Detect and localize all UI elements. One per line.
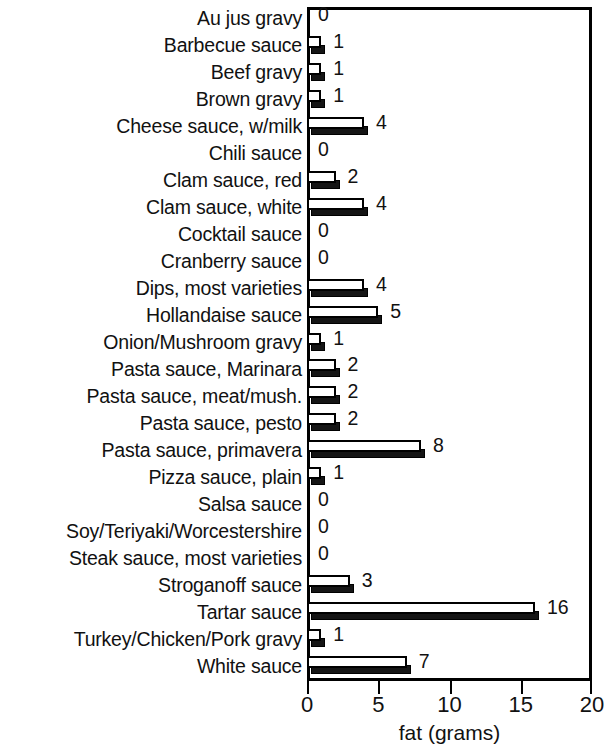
bar-value-label: 1 <box>333 32 344 52</box>
category-label: Pasta sauce, meat/mush. <box>0 387 302 407</box>
category-label: White sauce <box>0 657 302 677</box>
bar-row: 8 <box>307 438 592 465</box>
bar-row: 0 <box>307 250 592 277</box>
category-label: Stroganoff sauce <box>0 576 302 596</box>
bar-row: 4 <box>307 196 592 223</box>
bar-chart: Au jus gravyBarbecue sauceBeef gravyBrow… <box>0 0 611 754</box>
bar-face <box>307 63 321 75</box>
category-label: Brown gravy <box>0 90 302 110</box>
bar-row: 2 <box>307 411 592 438</box>
bar-value-label: 0 <box>318 248 329 268</box>
category-label: Hollandaise sauce <box>0 306 302 326</box>
bar-face <box>307 602 535 614</box>
bar-row: 1 <box>307 61 592 88</box>
bar-value-label: 1 <box>333 463 344 483</box>
bar-face <box>307 117 364 129</box>
x-tick-label: 0 <box>301 694 313 716</box>
category-label: Au jus gravy <box>0 9 302 29</box>
bar-face <box>307 279 364 291</box>
bar-face <box>307 413 336 425</box>
bar-row: 1 <box>307 34 592 61</box>
category-label: Dips, most varieties <box>0 279 302 299</box>
bar-value-label: 0 <box>318 5 329 25</box>
bar-value-label: 3 <box>362 571 373 591</box>
bar-value-label: 8 <box>433 436 444 456</box>
bar-face <box>307 90 321 102</box>
category-label: Soy/Teriyaki/Worcestershire <box>0 522 302 542</box>
category-label: Clam sauce, white <box>0 198 302 218</box>
bar-value-label: 1 <box>333 86 344 106</box>
bar-face <box>307 306 378 318</box>
category-label: Barbecue sauce <box>0 36 302 56</box>
x-axis-title: fat (grams) <box>307 722 592 743</box>
bar-row: 0 <box>307 546 592 573</box>
category-label: Cocktail sauce <box>0 225 302 245</box>
category-label: Cheese sauce, w/milk <box>0 117 302 137</box>
bar-value-label: 2 <box>348 409 359 429</box>
bar-face <box>307 333 321 345</box>
bar-face <box>307 36 321 48</box>
category-label: Beef gravy <box>0 63 302 83</box>
bar-face <box>307 656 407 668</box>
category-label: Turkey/Chicken/Pork gravy <box>0 630 302 650</box>
category-label: Pasta sauce, pesto <box>0 414 302 434</box>
bar-value-label: 4 <box>376 194 387 214</box>
bar-value-label: 7 <box>419 652 430 672</box>
bar-value-label: 1 <box>333 625 344 645</box>
bar-value-label: 0 <box>318 490 329 510</box>
category-label: Pizza sauce, plain <box>0 468 302 488</box>
bar-row: 4 <box>307 115 592 142</box>
bar-value-label: 4 <box>376 113 387 133</box>
category-label: Clam sauce, red <box>0 171 302 191</box>
category-label: Pasta sauce, primavera <box>0 441 302 461</box>
bar-value-label: 5 <box>390 302 401 322</box>
x-tick-label: 15 <box>509 694 533 716</box>
bar-face <box>307 440 421 452</box>
bar-value-label: 0 <box>318 517 329 537</box>
bar-face <box>307 198 364 210</box>
bar-row: 0 <box>307 7 592 34</box>
bar-value-label: 2 <box>348 355 359 375</box>
bar-value-label: 16 <box>547 598 569 618</box>
x-axis-tick-labels: 05101520 <box>307 694 592 720</box>
bar-face <box>307 386 336 398</box>
bar-row: 4 <box>307 277 592 304</box>
category-label: Onion/Mushroom gravy <box>0 333 302 353</box>
bar-row: 7 <box>307 654 592 681</box>
bar-value-label: 0 <box>318 221 329 241</box>
bar-value-label: 1 <box>333 59 344 79</box>
bar-row: 1 <box>307 88 592 115</box>
bars-layer: 01114024004512228100031617 <box>307 7 592 681</box>
x-tick-label: 10 <box>437 694 461 716</box>
bar-row: 1 <box>307 627 592 654</box>
bar-value-label: 4 <box>376 275 387 295</box>
x-tick-label: 20 <box>580 694 604 716</box>
category-axis-labels: Au jus gravyBarbecue sauceBeef gravyBrow… <box>0 0 302 688</box>
bar-face <box>307 575 350 587</box>
bar-value-label: 0 <box>318 544 329 564</box>
category-label: Chili sauce <box>0 144 302 164</box>
bar-row: 2 <box>307 169 592 196</box>
bar-face <box>307 629 321 641</box>
category-label: Salsa sauce <box>0 495 302 515</box>
category-label: Pasta sauce, Marinara <box>0 360 302 380</box>
category-label: Tartar sauce <box>0 603 302 623</box>
bar-row: 5 <box>307 304 592 331</box>
bar-row: 0 <box>307 492 592 519</box>
bar-face <box>307 171 336 183</box>
bar-row: 1 <box>307 465 592 492</box>
bar-face <box>307 359 336 371</box>
x-tick-label: 5 <box>372 694 384 716</box>
bar-row: 0 <box>307 223 592 250</box>
bar-row: 16 <box>307 600 592 627</box>
category-label: Cranberry sauce <box>0 252 302 272</box>
bar-value-label: 1 <box>333 329 344 349</box>
bar-row: 0 <box>307 519 592 546</box>
bar-face <box>307 467 321 479</box>
bar-value-label: 0 <box>318 140 329 160</box>
category-label: Steak sauce, most varieties <box>0 549 302 569</box>
bar-value-label: 2 <box>348 382 359 402</box>
bar-value-label: 2 <box>348 167 359 187</box>
